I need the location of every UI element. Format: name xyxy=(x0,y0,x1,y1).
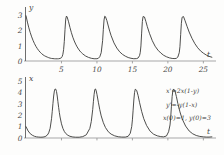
svg-text:1: 1 xyxy=(18,122,23,131)
y-tick-labels-x: 012345 xyxy=(17,77,23,143)
svg-text:3: 3 xyxy=(18,100,23,109)
annotation-equation-1: x'=2x(1-y) xyxy=(166,87,199,94)
annotation-equation-2: y'=-y(1-x) xyxy=(166,101,197,108)
svg-text:4: 4 xyxy=(17,88,23,97)
axis-label-y: y xyxy=(28,3,34,12)
y-tick-labels-y: 0123 xyxy=(17,11,23,65)
svg-text:0: 0 xyxy=(18,57,23,66)
chart-svg-y: 0123 510152025 y t xyxy=(0,0,224,78)
svg-text:2: 2 xyxy=(17,26,23,35)
svg-text:5: 5 xyxy=(18,77,23,86)
svg-text:1: 1 xyxy=(18,42,23,51)
axis-label-x: x xyxy=(29,74,34,83)
chart-panel-y: 0123 510152025 y t xyxy=(0,0,224,78)
axes-y xyxy=(24,7,216,61)
svg-text:3: 3 xyxy=(18,11,23,20)
svg-text:0: 0 xyxy=(18,134,23,143)
figure-container: 0123 510152025 y t 012345 x t x'=2x(1-y)… xyxy=(0,0,224,155)
svg-text:2: 2 xyxy=(17,111,23,120)
curve-y-series xyxy=(26,16,212,59)
annotation-initial-conditions: x(0)=1, y(0)=3 xyxy=(163,114,211,121)
axis-label-t-top: t xyxy=(207,50,211,59)
axis-label-t-bottom: t xyxy=(207,127,211,136)
